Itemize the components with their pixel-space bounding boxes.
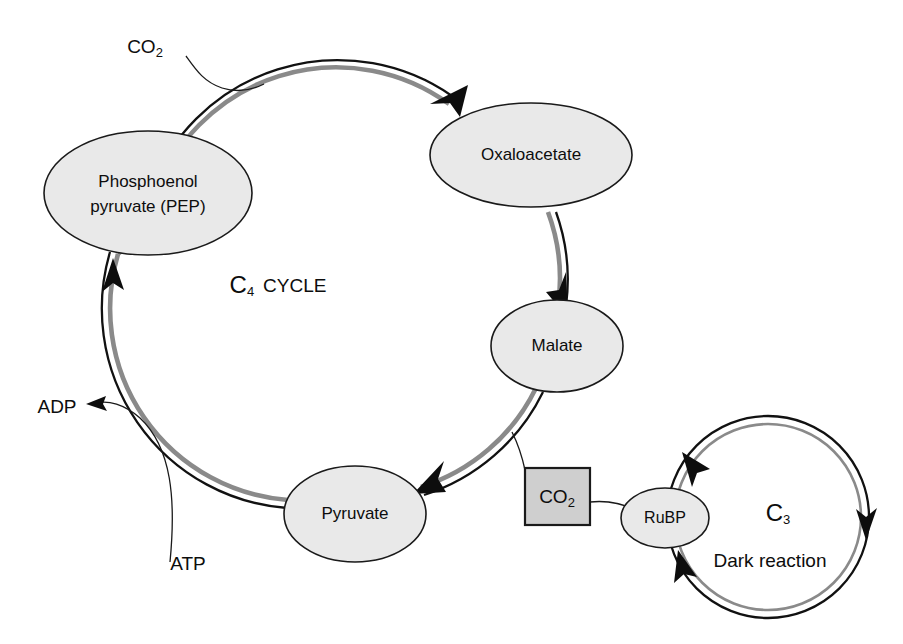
malate-label: Malate [531,336,582,355]
co2-input-label: CO2 [127,36,163,60]
c4-title-word: CYCLE [263,275,326,296]
pyruvate-label: Pyruvate [321,504,388,523]
phosphoenol-pyruvate-label-line1: Phosphoenol [98,172,197,191]
node-malate[interactable]: Malate [491,300,623,392]
c3-dark-reaction-caption: Dark reaction [714,550,827,571]
c3-title-c: C [766,499,783,526]
c3-cycle-title: C3 [766,499,791,527]
node-oxaloacetate[interactable]: Oxaloacetate [430,103,632,207]
c4-title-subscript: 4 [247,284,254,299]
adp-arrow-curve [96,402,172,562]
co2-transfer-box[interactable]: CO2 [525,468,590,525]
rubp-label: RuBP [644,509,686,526]
arrowhead-to-adp [86,396,107,411]
co2-box-label-main: CO [539,486,568,507]
pathway-diagram: Phosphoenol pyruvate (PEP) Oxaloacetate … [0,0,903,644]
co2-box-label-subscript: 2 [568,495,575,510]
phosphoenol-pyruvate-label-line2: pyruvate (PEP) [90,197,205,216]
c4-cycle-title: C4CYCLE [230,271,327,299]
adp-label: ADP [37,396,76,417]
c4-title-c: C [230,271,247,298]
co2-input-label-subscript: 2 [156,45,163,60]
phosphoenol-pyruvate-ellipse[interactable] [44,131,252,255]
oxaloacetate-label: Oxaloacetate [481,145,581,164]
co2-input-label-main: CO [127,36,156,57]
node-pyruvate[interactable]: Pyruvate [284,466,426,562]
arrowhead-c3-lower-left [674,550,697,583]
node-rubp[interactable]: RuBP [621,488,709,548]
node-phosphoenol-pyruvate[interactable]: Phosphoenol pyruvate (PEP) [44,131,252,255]
arrowhead-to-oxaloacetate [430,85,468,117]
c4-ring-inner-band-left [110,254,288,500]
atp-label: ATP [170,553,206,574]
co2-box-leader-from-c4 [512,432,525,470]
c3-title-subscript: 3 [783,512,790,527]
figure-canvas: Phosphoenol pyruvate (PEP) Oxaloacetate … [0,0,903,644]
